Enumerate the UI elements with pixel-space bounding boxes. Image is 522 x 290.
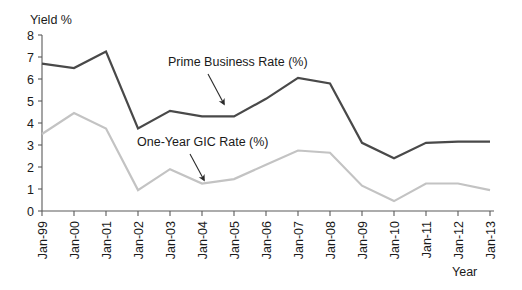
x-tick-label: Jan-99 [36, 221, 50, 259]
x-tick-label: Jan-10 [388, 221, 402, 259]
x-tick-label: Jan-01 [100, 221, 114, 259]
y-axis-title: Yield % [30, 13, 72, 27]
x-tick-label: Jan-11 [420, 221, 434, 258]
x-axis-title: Year [452, 265, 477, 279]
y-tick-label: 8 [27, 29, 34, 43]
y-tick-label: 7 [27, 51, 34, 65]
x-tick-label: Jan-04 [196, 221, 210, 259]
chart-container: Yield % Year 012345678 Jan-99Jan-00Jan-0… [0, 0, 522, 290]
x-tick-label: Jan-00 [68, 221, 82, 259]
x-tick-label: Jan-03 [164, 221, 178, 259]
y-axis-ticks: 012345678 [27, 29, 42, 219]
x-tick-label: Jan-02 [132, 221, 146, 259]
x-tick-label: Jan-06 [260, 221, 274, 259]
y-tick-label: 1 [27, 183, 34, 197]
y-tick-label: 0 [27, 205, 34, 219]
y-tick-label: 6 [27, 73, 34, 87]
annotation-arrow [208, 74, 224, 104]
y-tick-label: 4 [27, 117, 34, 131]
series-lines [42, 52, 490, 202]
annotation-arrow [190, 154, 204, 180]
x-tick-label: Jan-08 [324, 221, 338, 259]
x-tick-label: Jan-07 [292, 221, 306, 259]
series-line-one-year-gic-rate [42, 113, 490, 201]
y-tick-label: 5 [27, 95, 34, 109]
y-tick-label: 2 [27, 161, 34, 175]
y-tick-label: 3 [27, 139, 34, 153]
line-chart: Yield % Year 012345678 Jan-99Jan-00Jan-0… [0, 0, 522, 290]
x-tick-label: Jan-05 [228, 221, 242, 259]
annotation-label: Prime Business Rate (%) [168, 55, 308, 69]
x-tick-label: Jan-13 [484, 221, 498, 259]
x-tick-label: Jan-09 [356, 221, 370, 259]
x-tick-label: Jan-12 [452, 221, 466, 259]
annotation-label: One-Year GIC Rate (%) [137, 135, 269, 149]
x-axis-ticks: Jan-99Jan-00Jan-01Jan-02Jan-03Jan-04Jan-… [36, 211, 498, 259]
